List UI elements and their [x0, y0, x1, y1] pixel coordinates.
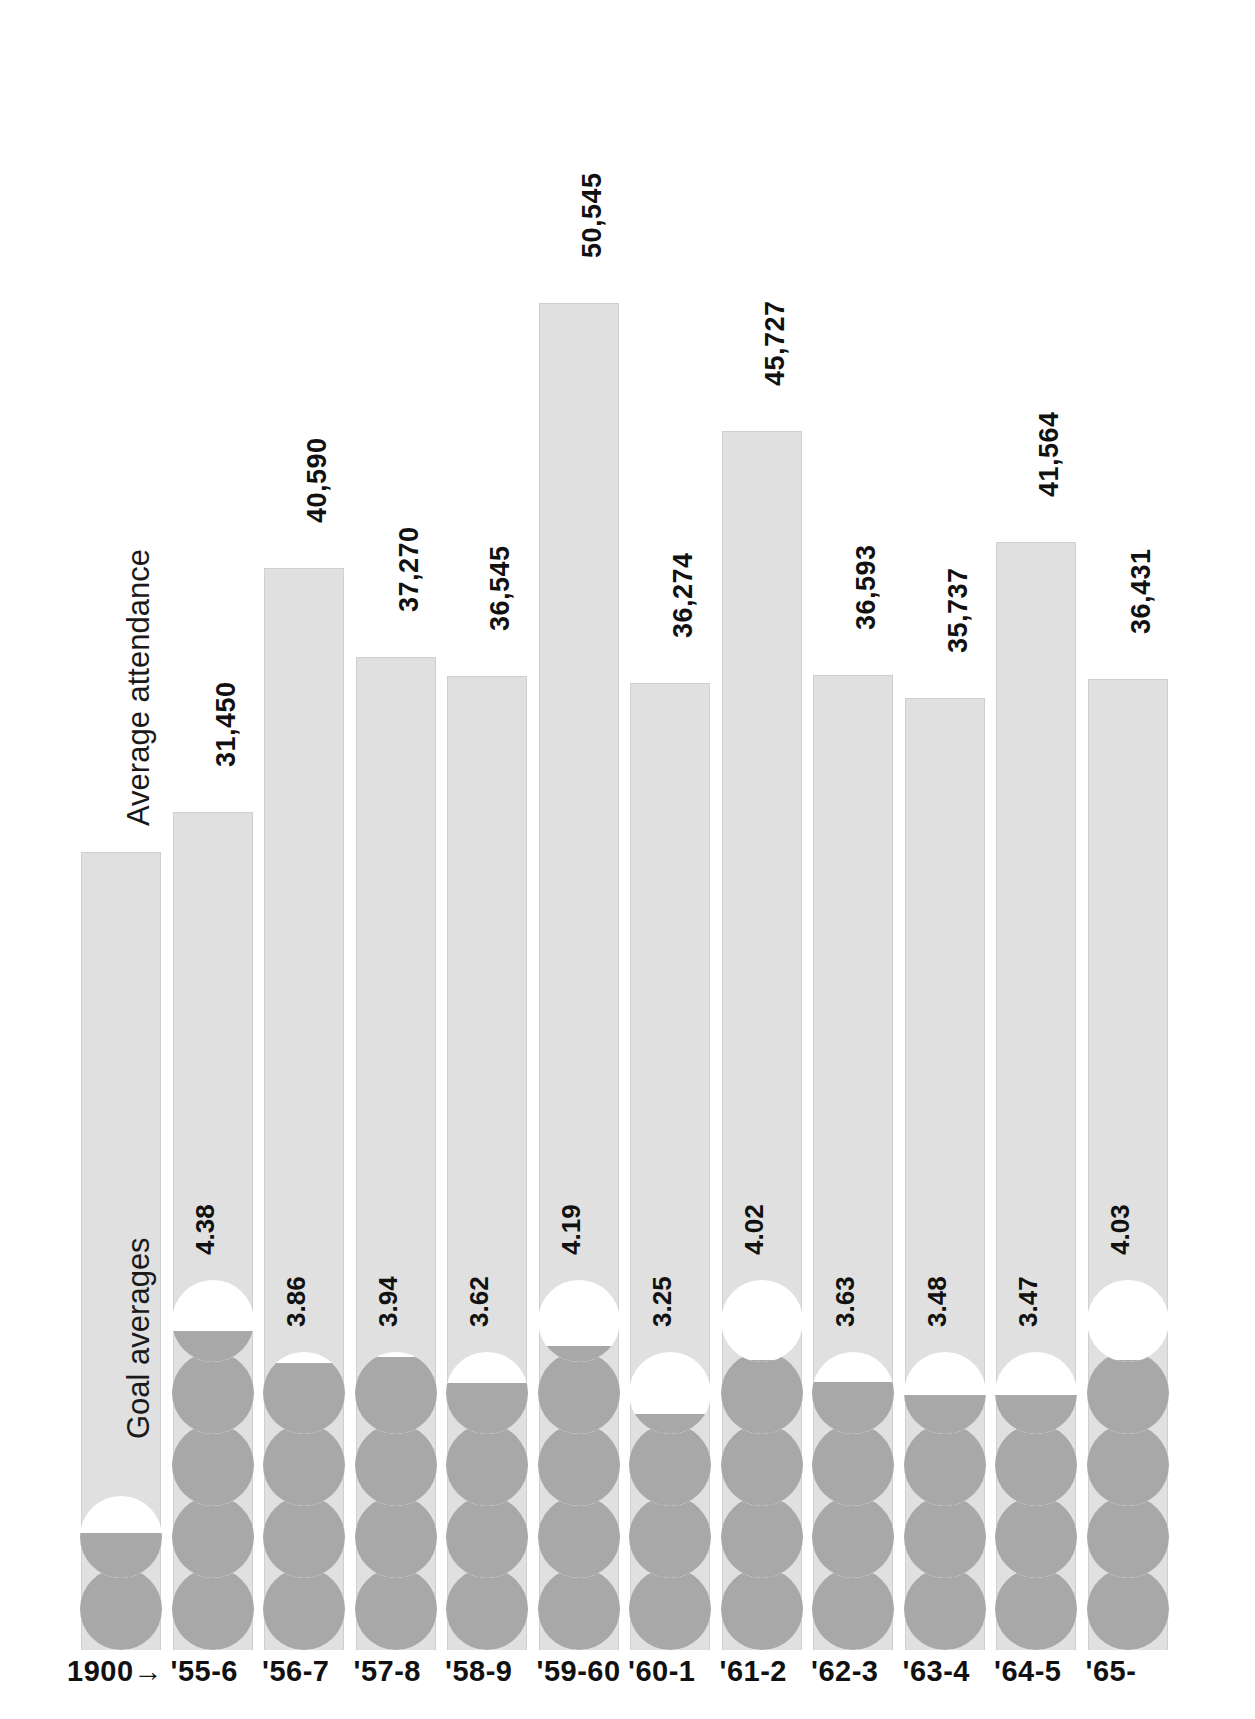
- chart-column: 35,7373.48: [905, 0, 985, 1650]
- goal-circle: [812, 1424, 894, 1506]
- goal-circle: [80, 1496, 162, 1578]
- attendance-value-label: 41,564: [1034, 411, 1065, 497]
- goal-circle: [538, 1496, 620, 1578]
- goal-circle-fill: [721, 1360, 803, 1362]
- goal-circle-fill: [995, 1424, 1077, 1506]
- goal-circle-fill: [80, 1568, 162, 1650]
- goal-circle-fill: [812, 1568, 894, 1650]
- attendance-value-label: 40,590: [302, 437, 333, 523]
- goal-circle-fill: [80, 1533, 162, 1578]
- goal-circle-fill: [995, 1496, 1077, 1578]
- goal-circle-fill: [538, 1346, 620, 1362]
- goal-average-label: 3.62: [464, 1276, 495, 1327]
- attendance-value-label: 36,593: [851, 544, 882, 630]
- plot-area: Average attendanceGoal averages31,4504.3…: [0, 0, 1255, 1650]
- goal-circle: [629, 1496, 711, 1578]
- goal-circle: [904, 1496, 986, 1578]
- goal-circle: [812, 1496, 894, 1578]
- goal-circle: [995, 1352, 1077, 1434]
- goal-circle-fill: [629, 1414, 711, 1435]
- goal-circle-fill: [904, 1496, 986, 1578]
- goal-circle-fill: [355, 1496, 437, 1578]
- x-axis-label: 1900→: [67, 1655, 163, 1688]
- goal-average-label: 3.63: [830, 1276, 861, 1327]
- goal-circle-fill: [1087, 1352, 1169, 1434]
- goal-circle: [904, 1352, 986, 1434]
- chart-column: 36,5933.63: [813, 0, 893, 1650]
- goal-average-label: 3.48: [922, 1276, 953, 1327]
- goal-circle-stack: [721, 1280, 803, 1650]
- goal-circle: [538, 1280, 620, 1362]
- goal-circle-fill: [1087, 1360, 1169, 1362]
- x-axis-label: '58-9: [445, 1655, 512, 1688]
- goal-average-label: 4.38: [190, 1204, 221, 1255]
- x-axis-label: '56-7: [262, 1655, 329, 1688]
- goal-circle: [446, 1568, 528, 1650]
- goal-circle-fill: [904, 1424, 986, 1506]
- goal-circle: [1087, 1496, 1169, 1578]
- goal-circle: [995, 1496, 1077, 1578]
- goal-circle-fill: [446, 1496, 528, 1578]
- goal-circle: [995, 1568, 1077, 1650]
- goal-circle: [1087, 1568, 1169, 1650]
- goal-circle: [172, 1352, 254, 1434]
- goal-circle: [172, 1496, 254, 1578]
- goal-circle: [538, 1568, 620, 1650]
- goal-circle-fill: [172, 1331, 254, 1362]
- goal-circle: [263, 1352, 345, 1434]
- goal-circle-stack: [904, 1280, 986, 1650]
- chart-root: Average attendanceGoal averages31,4504.3…: [0, 0, 1255, 1719]
- goal-circle-fill: [355, 1568, 437, 1650]
- goal-circle-fill: [812, 1424, 894, 1506]
- goal-circle-fill: [172, 1496, 254, 1578]
- goal-circle: [1087, 1280, 1169, 1362]
- goal-circle: [629, 1352, 711, 1434]
- goal-circle-fill: [1087, 1424, 1169, 1506]
- goal-circle: [904, 1568, 986, 1650]
- chart-column: 45,7274.02: [722, 0, 802, 1650]
- goal-circle-fill: [446, 1383, 528, 1434]
- legend-column: Average attendanceGoal averages: [81, 0, 161, 1650]
- goal-circle-fill: [995, 1568, 1077, 1650]
- chart-column: 40,5903.86: [264, 0, 344, 1650]
- goal-circle: [721, 1424, 803, 1506]
- goal-circle: [721, 1568, 803, 1650]
- goal-circle-fill: [263, 1496, 345, 1578]
- goal-circle-fill: [538, 1496, 620, 1578]
- goal-circle: [721, 1496, 803, 1578]
- goal-circle: [1087, 1424, 1169, 1506]
- x-axis-label: '59-60: [537, 1655, 621, 1688]
- goal-circle-stack: [1087, 1280, 1169, 1650]
- goal-circle: [995, 1424, 1077, 1506]
- goal-circle-fill: [721, 1568, 803, 1650]
- goal-circle-fill: [629, 1568, 711, 1650]
- goal-circle-fill: [446, 1568, 528, 1650]
- x-axis-label: '55-6: [171, 1655, 238, 1688]
- goal-circle-fill: [904, 1395, 986, 1434]
- goal-circle: [812, 1352, 894, 1434]
- legend-attendance-caption: Average attendance: [121, 549, 157, 826]
- goal-circle: [263, 1496, 345, 1578]
- goal-circle-fill: [721, 1496, 803, 1578]
- goal-circle: [629, 1424, 711, 1506]
- x-axis-labels: 1900→'55-6'56-7'57-8'58-9'59-60'60-1'61-…: [0, 1655, 1255, 1710]
- goal-circle: [172, 1424, 254, 1506]
- chart-column: 37,2703.94: [356, 0, 436, 1650]
- goal-circle-fill: [721, 1424, 803, 1506]
- chart-column: 50,5454.19: [539, 0, 619, 1650]
- chart-column: 36,4314.03: [1088, 0, 1168, 1650]
- goal-circle: [80, 1568, 162, 1650]
- goal-average-label: 3.25: [647, 1276, 678, 1327]
- x-axis-label: '57-8: [354, 1655, 421, 1688]
- attendance-value-label: 36,274: [668, 552, 699, 638]
- attendance-value-label: 50,545: [576, 172, 607, 258]
- x-axis-label: '65-: [1086, 1655, 1137, 1688]
- goal-circle: [446, 1424, 528, 1506]
- goal-circle: [172, 1568, 254, 1650]
- x-axis-label: '60-1: [628, 1655, 695, 1688]
- goal-circle-fill: [904, 1568, 986, 1650]
- goal-circle-fill: [538, 1424, 620, 1506]
- goal-circle: [263, 1424, 345, 1506]
- goal-circle: [629, 1568, 711, 1650]
- chart-column: 36,5453.62: [447, 0, 527, 1650]
